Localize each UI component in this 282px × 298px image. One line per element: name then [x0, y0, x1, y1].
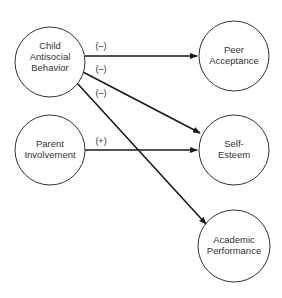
node-self-esteem: Self- Esteem [199, 115, 269, 185]
sign-child-academic: (–) [96, 88, 107, 98]
node-label-line: Esteem [218, 149, 250, 160]
node-label-line: Performance [207, 245, 261, 256]
node-label-line: Self- [224, 138, 244, 149]
node-label-line: Parent [36, 138, 64, 149]
node-parent-involvement: Parent Involvement [15, 115, 85, 185]
sign-child-peer: (–) [96, 41, 107, 51]
node-label-line: Behavior [31, 62, 69, 73]
node-child-antisocial-behavior: Child Antisocial Behavior [15, 27, 85, 97]
node-label-line: Acceptance [209, 55, 259, 66]
node-label-line: Child [39, 40, 61, 51]
node-peer-acceptance: Peer Acceptance [199, 21, 269, 91]
node-label-line: Academic [213, 234, 255, 245]
sign-child-self: (–) [96, 64, 107, 74]
sign-parent-self: (+) [95, 136, 106, 146]
node-label-line: Antisocial [30, 51, 71, 62]
edge-child-to-self [83, 72, 200, 133]
path-diagram: (–) (–) (–) (+) Child Antisocial Behavio… [0, 0, 282, 298]
node-academic-performance: Academic Performance [198, 210, 270, 282]
node-label-line: Involvement [24, 149, 76, 160]
node-label-line: Peer [224, 44, 244, 55]
edge-child-to-academic [77, 83, 206, 224]
